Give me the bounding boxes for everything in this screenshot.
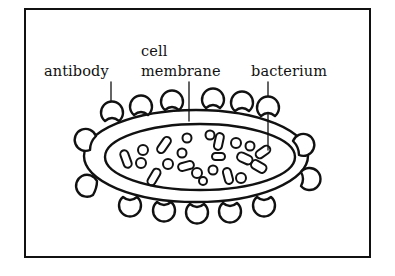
antibody-icon bbox=[301, 168, 320, 190]
antibody-icon bbox=[231, 92, 253, 111]
antibody-icon bbox=[75, 129, 96, 151]
antibody-icon bbox=[119, 197, 141, 216]
organelles bbox=[119, 131, 272, 187]
antibody-icon bbox=[253, 197, 275, 216]
antibody-icon bbox=[202, 89, 224, 108]
bacterium-diagram bbox=[0, 0, 395, 276]
antibody-icon bbox=[76, 175, 97, 197]
antibody-icon bbox=[130, 96, 152, 115]
antibody-icon bbox=[293, 134, 314, 156]
antibodies bbox=[75, 89, 321, 224]
antibody-icon bbox=[219, 203, 241, 222]
antibody-icon bbox=[257, 97, 279, 116]
antibody-icon bbox=[161, 91, 183, 110]
antibody-icon bbox=[186, 204, 208, 223]
antibody-icon bbox=[101, 102, 123, 121]
antibody-icon bbox=[153, 202, 175, 221]
